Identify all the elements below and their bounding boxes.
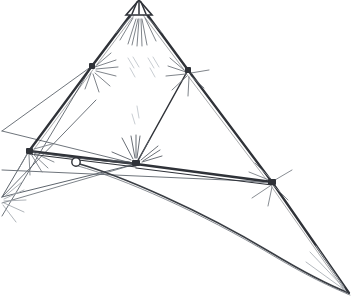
node-center-hub — [132, 160, 140, 166]
ring-eyelet — [72, 158, 80, 166]
tensioned-sail-frame-drawing — [0, 0, 354, 305]
line-drawing-canvas-root — [0, 0, 354, 305]
drawing-background — [0, 0, 354, 305]
node-left-shoulder — [89, 63, 95, 69]
node-right-shoulder — [185, 67, 191, 73]
node-right-spar-end — [268, 179, 276, 185]
node-left-spar-end — [26, 148, 33, 154]
